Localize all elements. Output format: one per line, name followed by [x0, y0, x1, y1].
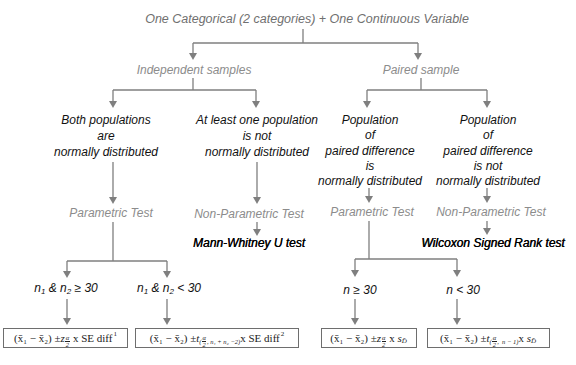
formula-times: x	[386, 332, 397, 344]
node-line: Both populations	[61, 113, 150, 128]
cond-text: & n	[45, 281, 66, 295]
node-line: is	[366, 159, 375, 174]
node-line: are	[97, 129, 114, 144]
formula-box-z-independent: (x̄₁ − x̄₂) ± zα2 x SE diff1	[3, 328, 128, 348]
fraction: α2	[65, 335, 69, 348]
node-line: paired difference	[443, 144, 532, 159]
formula-critical-subscript: α2	[381, 335, 386, 348]
node-line: paired difference	[325, 144, 414, 159]
formula-diff: (x̄₁ − x̄₂) ±	[440, 332, 487, 344]
fraction: α2	[202, 335, 206, 348]
node-line: of	[483, 128, 493, 143]
formula-critical-subscript: (α2, n − 1)	[490, 335, 519, 348]
node-line: Population	[342, 113, 399, 128]
fraction: α2	[382, 335, 386, 348]
node-line: is not	[474, 159, 503, 174]
formula-box-t-independent: (x̄₁ − x̄₂) ± t(α2, n₁ + n₂ −2)x SE diff…	[135, 328, 299, 348]
node-condition-large-independent: n1 & n2 ≥ 30	[34, 281, 98, 299]
node-paired-sample: Paired sample	[383, 63, 460, 78]
formula-times: x	[70, 332, 81, 344]
cond-text: ≥ 30	[71, 281, 98, 295]
cond-text: n	[137, 281, 144, 295]
node-condition-small-independent: n1 & n2 < 30	[137, 281, 201, 299]
frac-den: 2	[203, 342, 206, 348]
formula-times: x	[240, 332, 248, 344]
node-parametric-test-independent: Parametric Test	[69, 206, 153, 221]
formula-se-sub: D̄	[402, 337, 407, 345]
frac-den: 2	[66, 342, 69, 348]
formula-critical-subscript: α2	[65, 335, 70, 348]
formula-critical-subscript: (α2, n₁ + n₂ −2)	[199, 335, 240, 348]
flowchart-canvas: One Categorical (2 categories) + One Con…	[0, 0, 576, 365]
formula-footnote: 2	[281, 330, 285, 338]
formula-footnote: 1	[113, 330, 117, 338]
node-condition-small-paired: n < 30	[446, 283, 480, 298]
formula-diff: (x̄₁ − x̄₂) ±	[14, 332, 61, 344]
node-line: At least one population	[196, 113, 318, 128]
node-line: normally distributed	[436, 174, 540, 189]
diagram-title: One Categorical (2 categories) + One Con…	[145, 12, 469, 27]
node-line: of	[365, 128, 375, 143]
formula-box-z-paired: (x̄₁ − x̄₂) ± zα2 x sD̄	[321, 328, 417, 348]
cond-text: < 30	[174, 281, 201, 295]
node-wilcoxon-test: Wilcoxon Signed Rank test	[421, 236, 564, 251]
cond-text: n	[34, 281, 41, 295]
frac-den: 2	[493, 342, 496, 348]
formula-se: SE diff	[248, 332, 279, 344]
sub-rest: , n − 1)	[497, 338, 518, 345]
formula-diff: (x̄₁ − x̄₂) ±	[150, 332, 197, 344]
node-line: Population	[460, 113, 517, 128]
formula-se-sub: D̄	[531, 337, 536, 345]
node-nonparametric-test-independent: Non-Parametric Test	[194, 207, 304, 222]
fraction: α2	[492, 335, 496, 348]
formula-se: SE diff	[81, 332, 112, 344]
node-line: normally distributed	[205, 145, 309, 160]
node-line: normally distributed	[318, 174, 422, 189]
node-line: normally distributed	[54, 145, 158, 160]
formula-times: x	[518, 332, 526, 344]
node-independent-samples: Independent samples	[137, 63, 252, 78]
formula-diff: (x̄₁ − x̄₂) ±	[330, 332, 377, 344]
node-condition-large-paired: n ≥ 30	[343, 283, 376, 298]
arrowheads	[63, 53, 491, 325]
node-line: is not	[243, 129, 272, 144]
node-parametric-test-paired: Parametric Test	[330, 205, 414, 220]
node-nonparametric-test-paired: Non-Parametric Test	[436, 205, 546, 220]
cond-text: & n	[148, 281, 169, 295]
sub-rest: , n₁ + n₂ −2)	[207, 338, 240, 345]
node-mann-whitney-test: Mann-Whitney U test	[193, 236, 305, 251]
frac-den: 2	[382, 342, 385, 348]
formula-box-t-paired: (x̄₁ − x̄₂) ± t(α2, n − 1)x sD̄	[427, 328, 550, 348]
